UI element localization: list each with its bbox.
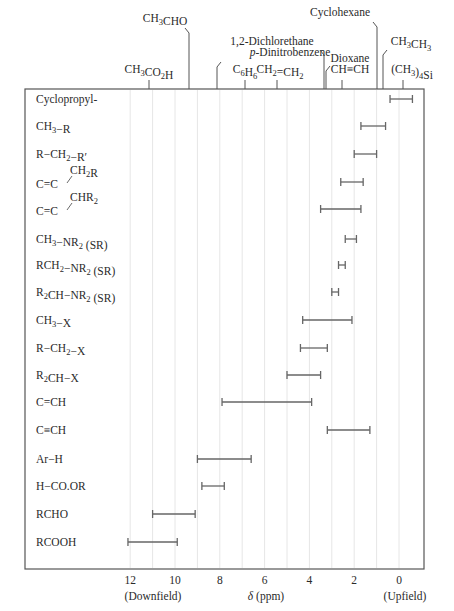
- row-label: H−CO.OR: [36, 480, 86, 492]
- x-tick-label: 8: [217, 574, 223, 586]
- row-label: RCHO: [36, 508, 68, 520]
- x-tick-label: 10: [169, 574, 181, 586]
- x-tick-label: 12: [124, 574, 136, 586]
- reference-label: CH3CHO: [143, 12, 188, 27]
- range-row: CH3−NR2 (SR): [36, 233, 356, 252]
- reference-marker: C6H6: [233, 63, 257, 89]
- range-row: R2CH−NR2 (SR): [36, 286, 339, 305]
- x-axis-title: δ (ppm): [248, 590, 285, 603]
- row-label: C≡CH: [36, 424, 66, 436]
- reference-label: (CH3)4Si: [391, 63, 433, 81]
- range-row: C=CH: [36, 396, 312, 408]
- row-label: R−CH2−R′: [36, 148, 87, 163]
- reference-label: p-Dinitrobenzene: [249, 46, 330, 59]
- row-label: R2CH−NR2 (SR): [36, 286, 115, 305]
- nmr-chemical-shift-chart: CH3CO2HCH3CHOp-DinitrobenzeneC6H6CH2=CH2…: [0, 0, 454, 611]
- range-row: C=CCH2R: [36, 164, 363, 190]
- reference-marker: CH≡CH: [331, 63, 369, 89]
- reference-label: CH2=CH2: [257, 63, 304, 81]
- reference-compounds: CH3CO2HCH3CHOp-DinitrobenzeneC6H6CH2=CH2…: [125, 6, 433, 89]
- reference-label: 1,2-Dichlorethane: [230, 35, 313, 48]
- x-axis: 121086420: [124, 574, 402, 586]
- range-row: C≡CH: [36, 424, 370, 436]
- range-rows: Cyclopropyl-CH3−RR−CH2−R′C=CCH2RC=CCHR2C…: [36, 93, 412, 548]
- reference-label: Cyclohexane: [310, 6, 370, 19]
- reference-marker: CH3CO2H: [125, 63, 174, 89]
- row-label: RCOOH: [36, 536, 76, 548]
- reference-label: CH3CO2H: [125, 63, 174, 81]
- row-label: C=CH: [36, 396, 66, 408]
- range-row: Ar−H: [36, 453, 251, 465]
- row-label: CH3−NR2 (SR): [36, 233, 108, 252]
- row-label: CH3−R: [36, 120, 71, 135]
- row-label-substituent: CHR2: [70, 191, 98, 206]
- range-row: R−CH2−X: [36, 342, 327, 357]
- row-label: RCH2−NR2 (SR): [36, 259, 115, 278]
- reference-label: CH3CH3: [391, 35, 431, 53]
- downfield-label: (Downfield): [125, 590, 182, 603]
- row-label: CH3−X: [36, 314, 72, 329]
- row-label-substituent: CH2R: [70, 164, 98, 179]
- range-row: R2CH−X: [36, 369, 321, 384]
- row-label: Cyclopropyl-: [36, 93, 97, 106]
- x-tick-label: 6: [262, 574, 268, 586]
- row-label: R−CH2−X: [36, 342, 86, 357]
- range-row: RCOOH: [36, 536, 177, 548]
- range-row: CH3−X: [36, 314, 352, 329]
- x-tick-label: 4: [307, 574, 313, 586]
- reference-label: CH≡CH: [331, 63, 369, 75]
- range-row: Cyclopropyl-: [36, 93, 412, 106]
- row-label: Ar−H: [36, 453, 63, 465]
- row-label: C=C: [36, 205, 58, 217]
- range-row: R−CH2−R′: [36, 148, 377, 163]
- range-row: CH3−R: [36, 120, 386, 135]
- reference-marker: (CH3)4Si: [391, 63, 433, 89]
- row-label: C=C: [36, 178, 58, 190]
- range-row: C=CCHR2: [36, 191, 361, 217]
- x-tick-label: 0: [396, 574, 402, 586]
- range-row: RCH2−NR2 (SR): [36, 259, 345, 278]
- reference-marker: CH2=CH2: [257, 63, 304, 89]
- upfield-label: (Upfield): [384, 590, 427, 603]
- x-tick-label: 2: [351, 574, 357, 586]
- reference-label: C6H6: [233, 63, 257, 81]
- row-label: R2CH−X: [36, 369, 79, 384]
- gridlines: [130, 90, 399, 568]
- range-row: RCHO: [36, 508, 195, 520]
